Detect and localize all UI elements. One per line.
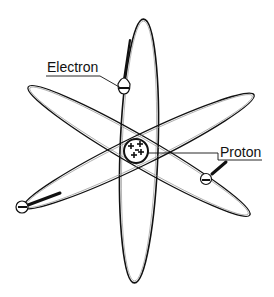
- electron-label: Electron: [47, 59, 98, 75]
- proton-label: Proton: [220, 144, 261, 160]
- electron-leader-line: [46, 76, 121, 88]
- electron-icon: [16, 201, 28, 213]
- nucleus-circle: [124, 139, 148, 163]
- electron-icon: [201, 174, 212, 185]
- nucleus: [124, 139, 148, 163]
- electron-icon: [118, 78, 130, 94]
